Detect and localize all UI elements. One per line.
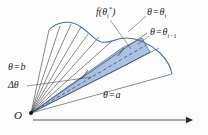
label-theta-i-minus-1: θ=θi−1 — [150, 27, 176, 39]
label-f-sub: i — [107, 12, 109, 19]
label-delta-theta: Δθ — [8, 80, 19, 90]
label-theta-b-eq: = — [13, 61, 21, 72]
label-origin: O — [14, 110, 22, 121]
leader-line-f-theta — [110, 20, 131, 49]
label-theta-equals-a: θ=a — [103, 90, 121, 100]
polar-axis — [33, 117, 193, 123]
label-theta-equals-b: θ=b — [8, 62, 26, 72]
label-theta-i: θ=θi — [147, 7, 166, 19]
label-theta-im1-eq: = — [155, 26, 163, 37]
label-f-of-theta-star: f(θi*) — [96, 6, 115, 20]
axis-arrowhead — [186, 117, 193, 123]
polar-area-diagram: θ=θi θ=θi−1 f(θi*) θ=b Δθ θ=a O — [0, 0, 208, 135]
dashed-midline-sector — [31, 45, 146, 113]
label-theta-b-var: b — [21, 61, 26, 72]
label-f-close: ) — [112, 6, 115, 17]
leader-line-theta-i — [128, 16, 146, 32]
label-theta-i-eq: = — [152, 6, 160, 17]
label-theta-im1-sub: i−1 — [167, 32, 176, 39]
label-theta-a-var: a — [116, 89, 121, 100]
origin-point — [29, 111, 33, 115]
highlighted-sector — [31, 38, 150, 113]
diagram-canvas — [0, 0, 208, 135]
ray-theta-i — [31, 33, 147, 113]
label-theta-a-eq: = — [108, 89, 116, 100]
label-theta-i-sub: i — [164, 12, 166, 19]
ray-theta-a — [31, 74, 172, 113]
